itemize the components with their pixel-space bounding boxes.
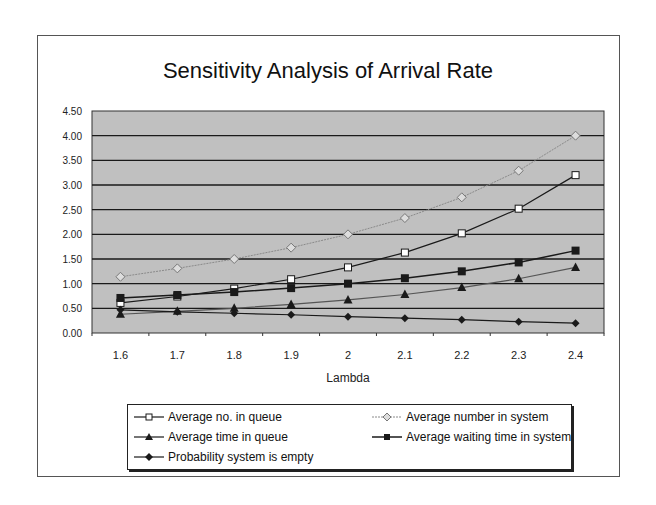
x-tick-label: 1.7 <box>170 349 185 361</box>
x-tick-label: 1.6 <box>113 349 128 361</box>
y-tick-label: 1.50 <box>63 254 83 265</box>
legend-label: Average waiting time in system <box>406 430 571 444</box>
y-tick-label: 0.00 <box>63 328 83 339</box>
y-tick-label: 4.00 <box>63 131 83 142</box>
y-axis: 0.000.501.001.502.002.503.003.504.004.50 <box>63 106 83 339</box>
y-tick-label: 3.50 <box>63 155 83 166</box>
y-tick-label: 2.00 <box>63 229 83 240</box>
legend-label: Average time in queue <box>168 430 288 444</box>
legend-label: Average number in system <box>406 410 549 424</box>
x-tick-label: 2 <box>345 349 351 361</box>
y-tick-label: 2.50 <box>63 205 83 216</box>
y-tick-label: 4.50 <box>63 106 83 117</box>
open-diamond-marker-icon <box>372 412 402 422</box>
filled-triangle-marker-icon <box>134 432 164 442</box>
legend-label: Average no. in queue <box>168 410 282 424</box>
filled-diamond-marker-icon <box>134 452 164 462</box>
y-tick-label: 0.50 <box>63 303 83 314</box>
x-tick-label: 2.2 <box>454 349 469 361</box>
x-tick-label: 2.4 <box>568 349 583 361</box>
legend-item-avg-time-in-queue: Average time in queue <box>134 427 288 447</box>
legend: Average no. in queue Average number in s… <box>127 404 572 470</box>
x-axis: 1.61.71.81.922.12.22.32.4 <box>92 333 604 361</box>
x-tick-label: 2.3 <box>511 349 526 361</box>
y-tick-label: 3.00 <box>63 180 83 191</box>
x-tick-label: 1.9 <box>283 349 298 361</box>
legend-item-avg-number-in-system: Average number in system <box>372 407 549 427</box>
legend-item-avg-no-in-queue: Average no. in queue <box>134 407 282 427</box>
y-tick-label: 1.00 <box>63 279 83 290</box>
x-tick-label: 1.8 <box>227 349 242 361</box>
open-square-marker-icon <box>134 412 164 422</box>
legend-item-avg-waiting-time-in-system: Average waiting time in system <box>372 427 571 447</box>
filled-square-marker-icon <box>372 432 402 442</box>
legend-label: Probability system is empty <box>168 450 313 464</box>
legend-item-probability-system-empty: Probability system is empty <box>134 447 313 467</box>
x-tick-label: 2.1 <box>397 349 412 361</box>
x-axis-label: Lambda <box>0 371 656 385</box>
